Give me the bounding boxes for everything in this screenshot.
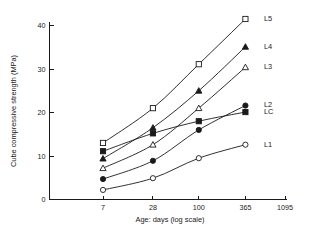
data-point-l5: [100, 140, 105, 145]
data-point-l2: [196, 127, 201, 132]
data-point-l3: [242, 64, 248, 70]
x-tick-label: 365: [239, 203, 251, 212]
data-point-l2: [243, 103, 248, 108]
data-point-l1: [150, 176, 155, 181]
series-line-l1: [103, 145, 245, 190]
x-tick-label: 7: [101, 203, 105, 212]
y-tick-label: 20: [38, 108, 46, 117]
data-series-layer: [100, 16, 249, 192]
y-tick-label: 30: [38, 65, 46, 74]
series-label-l4: L4: [264, 42, 272, 51]
y-tick-label: 40: [38, 21, 46, 30]
series-l2: [100, 103, 248, 182]
series-l4: [100, 44, 249, 161]
data-point-l3: [150, 142, 156, 148]
x-tick-label: 1095: [277, 203, 293, 212]
chart-canvas: 010203040 7281003651095 L5L4L3L2LCL1 Cub…: [0, 0, 309, 234]
series-l5: [100, 16, 248, 145]
data-point-l5: [196, 62, 201, 67]
data-point-l2: [100, 176, 105, 181]
data-point-lc: [243, 109, 248, 114]
data-point-l4: [242, 44, 248, 50]
series-line-lc: [103, 112, 245, 151]
series-label-l3: L3: [264, 62, 272, 71]
x-axis-title: Age: days (log scale): [135, 215, 204, 224]
series-l3: [100, 64, 249, 170]
x-axis: 7281003651095: [50, 196, 294, 212]
series-label-lc: LC: [264, 107, 274, 116]
data-point-lc: [196, 119, 201, 124]
data-point-l3: [100, 165, 106, 171]
data-point-l4: [150, 125, 156, 131]
data-point-l1: [196, 156, 201, 161]
x-tick-label: 100: [193, 203, 205, 212]
x-tick-label: 28: [149, 203, 157, 212]
data-point-lc: [150, 131, 155, 136]
series-l1: [100, 142, 248, 192]
series-line-l4: [103, 47, 245, 159]
data-point-l4: [100, 156, 106, 162]
data-point-l2: [150, 158, 155, 163]
data-point-l1: [100, 187, 105, 192]
series-line-l2: [103, 106, 245, 180]
data-point-l5: [243, 16, 248, 21]
series-label-l1: L1: [264, 140, 272, 149]
y-axis-title: Cube compressive strength (MPa): [9, 55, 18, 167]
data-point-l1: [243, 142, 248, 147]
data-point-l5: [150, 106, 155, 111]
data-point-lc: [100, 149, 105, 154]
series-label-l5: L5: [264, 14, 272, 23]
y-tick-label: 0: [42, 195, 46, 204]
series-line-l3: [103, 67, 245, 168]
y-axis: 010203040: [38, 21, 54, 204]
series-line-l5: [103, 19, 245, 143]
series-labels-layer: L5L4L3L2LCL1: [264, 14, 274, 149]
y-tick-label: 10: [38, 152, 46, 161]
chart-figure: 010203040 7281003651095 L5L4L3L2LCL1 Cub…: [0, 0, 309, 234]
